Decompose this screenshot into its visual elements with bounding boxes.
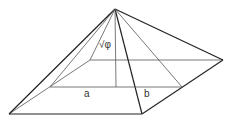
lateral-edge-front-left — [9, 9, 115, 114]
half-base-label: a — [84, 89, 90, 99]
pyramid-diagram — [0, 0, 235, 122]
height-line — [115, 9, 116, 87]
height-label: √φ — [99, 40, 111, 50]
lateral-edge-right — [115, 9, 223, 60]
slant-label: b — [144, 89, 150, 99]
